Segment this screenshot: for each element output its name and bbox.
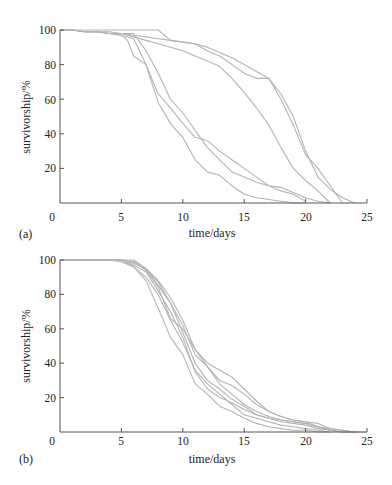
survival-curve-b7 [60, 260, 330, 432]
panel-a-ytick-60: 60 [45, 94, 57, 106]
panel-a-axes [60, 30, 367, 203]
panel-a-ytick-40: 40 [45, 128, 57, 140]
survival-curve-b5 [60, 260, 342, 432]
panel-a-ytick-20: 20 [45, 162, 57, 174]
panel-b-xtick-10: 10 [177, 435, 189, 447]
panel-a-label: (a) [19, 227, 32, 241]
panel-b-xtick-5: 5 [118, 435, 124, 447]
panel-b-y-axis-title: survivorship/% [19, 309, 33, 382]
panel-a-xtick-25: 25 [361, 211, 373, 223]
panel-b-xtick-15: 15 [238, 435, 250, 447]
panel-a-xtick-15: 15 [238, 211, 250, 223]
survival-curve-b6 [60, 260, 355, 432]
survival-curve-a5 [60, 30, 306, 201]
panel-b-label: (b) [19, 452, 33, 466]
panel-b-series [60, 260, 367, 432]
survival-curve-b4 [60, 260, 330, 432]
panel-a-ticks [60, 30, 367, 203]
panel-b-xtick-20: 20 [300, 435, 312, 447]
panel-b-axes [60, 260, 367, 432]
panel-a-ytick-80: 80 [45, 59, 57, 71]
survival-curve-b3 [60, 260, 355, 432]
panel-a-chart: 0 5 10 15 20 25 20 40 60 80 100 survivor… [19, 24, 373, 241]
survival-curve-b2 [60, 260, 355, 432]
panel-b-ytick-60: 60 [45, 323, 57, 335]
survival-curve-a1 [60, 30, 342, 203]
panel-b-ytick-100: 100 [39, 254, 57, 266]
panel-b-ytick-40: 40 [45, 357, 57, 369]
survival-curve-b1 [60, 260, 367, 432]
panel-a-x-axis-title: time/days [189, 226, 236, 240]
panel-b-chart: 0 5 10 15 20 25 20 40 60 80 100 survivor… [19, 254, 373, 466]
panel-a-xtick-20: 20 [300, 211, 312, 223]
survivorship-figure: 0 5 10 15 20 25 20 40 60 80 100 survivor… [0, 0, 392, 485]
panel-b-ytick-20: 20 [45, 392, 57, 404]
panel-a-xtick-5: 5 [118, 211, 124, 223]
panel-b-ticks [60, 260, 367, 432]
panel-a-series [60, 30, 355, 203]
panel-a-ytick-100: 100 [39, 24, 57, 36]
panel-b-x-axis-title: time/days [189, 452, 236, 466]
panel-a-x-origin-label: 0 [49, 211, 55, 223]
panel-a-xtick-10: 10 [177, 211, 189, 223]
survival-curve-a2 [60, 30, 355, 203]
panel-a-y-axis-title: survivorship/% [19, 80, 33, 153]
panel-b-ytick-80: 80 [45, 288, 57, 300]
panel-b-xtick-25: 25 [361, 435, 373, 447]
panel-b-x-origin-label: 0 [49, 435, 55, 447]
survival-curve-a4 [60, 30, 306, 203]
